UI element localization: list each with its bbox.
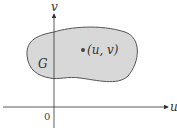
point-marker (81, 48, 85, 52)
y-axis-label: v (51, 0, 58, 14)
point-label: (u, v) (87, 43, 119, 57)
region-label: G (38, 57, 48, 71)
x-axis-label: u (170, 100, 177, 114)
coordinate-diagram: v u 0 G (u, v) (0, 0, 177, 134)
region-g (27, 27, 137, 82)
origin-label: 0 (44, 111, 50, 122)
